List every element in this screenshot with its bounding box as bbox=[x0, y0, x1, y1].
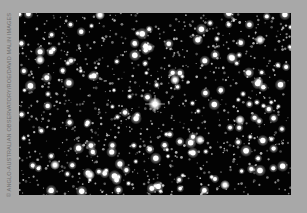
star-field-photo bbox=[19, 13, 291, 195]
photo-credit: © ANGLO-AUSTRALIAN OBSERVATORY/ROE/DAVID… bbox=[5, 12, 13, 197]
stars-graphic bbox=[19, 13, 291, 195]
photo-frame: © ANGLO-AUSTRALIAN OBSERVATORY/ROE/DAVID… bbox=[0, 0, 307, 213]
